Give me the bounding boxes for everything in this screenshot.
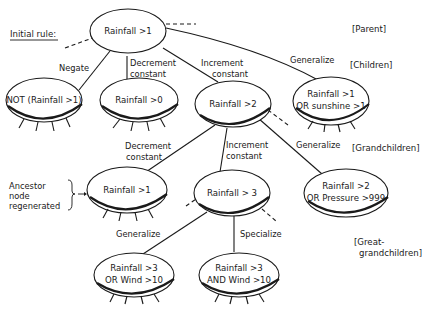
side-note-line-3: regenerated	[9, 201, 60, 211]
edges	[65, 24, 322, 254]
node-child-increment: Rainfall >2	[195, 81, 271, 127]
node-gc-increment: Rainfall > 3	[194, 170, 270, 216]
edge-label-gc-increment-1: Increment	[226, 140, 269, 150]
node-gc-decrement: Rainfall >1	[87, 167, 167, 221]
node-gc-generalize-text-2: OR Pressure >999	[307, 193, 386, 203]
level-label-great-grandchildren-2: grandchildren]	[359, 248, 422, 258]
node-ggc-specialize-text-2: AND Wind >10	[207, 275, 271, 285]
node-child-generalize-text-2: OR sunshine >1	[296, 101, 365, 111]
side-note-line-2: node	[9, 191, 30, 201]
edge-label-gc-decrement-1: Decrement	[125, 141, 172, 151]
side-note-ancestor-regenerated: Ancestor node regenerated	[9, 180, 87, 211]
edge-label-negate: Negate	[59, 63, 89, 73]
rule-mutation-tree-diagram: [Parent] [Children] [Grandchildren] [Gre…	[0, 0, 428, 313]
node-gc-decrement-text: Rainfall >1	[103, 185, 150, 195]
level-label-great-grandchildren-1: [Great-	[354, 237, 384, 247]
node-child-decrement-text: Rainfall >0	[115, 95, 162, 105]
node-root: Rainfall >1	[90, 9, 166, 53]
edge-label-gc-decrement-2: constant	[126, 152, 163, 162]
edge-label-gc-generalize: Generalize	[296, 140, 340, 150]
level-label-parent: [Parent]	[352, 24, 386, 34]
side-note-line-1: Ancestor	[9, 181, 46, 191]
node-root-text: Rainfall >1	[104, 26, 151, 36]
dashed-stub-gc-increment-right	[262, 209, 276, 221]
node-ggc-generalize-text-2: OR Wind >10	[105, 275, 163, 285]
node-child-generalize: Rainfall >1 OR sunshine >1	[293, 77, 369, 132]
curly-brace-icon	[68, 180, 75, 210]
node-gc-generalize: Rainfall >2 OR Pressure >999	[304, 169, 388, 217]
node-child-generalize-text-1: Rainfall >1	[307, 89, 354, 99]
dashed-stub-gc-increment-left	[186, 199, 196, 206]
initial-rule-label: Initial rule:	[10, 29, 56, 39]
edge-inc-to-gc-increment	[220, 128, 227, 172]
edge-label-ggc-generalize: Generalize	[116, 229, 160, 239]
edge-label-increment-1: Increment	[201, 58, 244, 68]
node-ggc-generalize: Rainfall >3 OR Wind >10	[94, 253, 174, 304]
node-gc-generalize-text-1: Rainfall >2	[322, 181, 369, 191]
node-child-negate-text: NOT (Rainfall >1)	[6, 95, 81, 105]
edge-label-decrement-2: constant	[130, 69, 167, 79]
node-ggc-generalize-text-1: Rainfall >3	[110, 263, 157, 273]
node-child-decrement: Rainfall >0	[100, 78, 178, 131]
node-child-increment-text: Rainfall >2	[209, 99, 256, 109]
edge-label-gc-increment-2: constant	[226, 151, 263, 161]
level-label-children: [Children]	[350, 60, 392, 70]
edge-label-generalize: Generalize	[290, 55, 334, 65]
edge-label-decrement-1: Decrement	[130, 58, 177, 68]
level-label-grandchildren: [Grandchildren]	[352, 143, 420, 153]
dashed-stub-increment-child	[268, 110, 288, 125]
edge-label-ggc-specialize: Specialize	[240, 229, 282, 239]
edge-label-increment-2: constant	[212, 69, 249, 79]
node-gc-increment-text: Rainfall > 3	[207, 188, 257, 198]
node-ggc-specialize-text-1: Rainfall >3	[215, 263, 262, 273]
node-ggc-specialize: Rainfall >3 AND Wind >10	[199, 253, 279, 304]
node-child-negate: NOT (Rainfall >1)	[6, 78, 82, 131]
